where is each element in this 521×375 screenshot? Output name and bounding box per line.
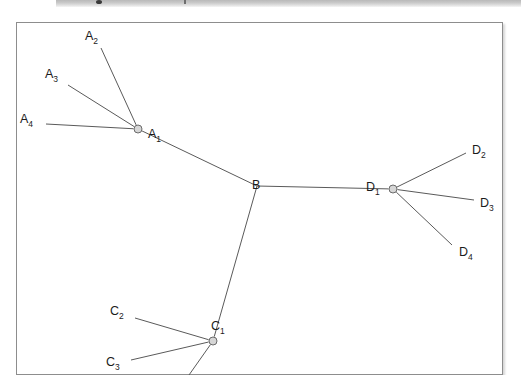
- node-label-base-C1: C: [211, 319, 220, 333]
- graph-edge-B-C1: [214, 186, 257, 337]
- graph-edge-A2-A1: [101, 48, 136, 125]
- node-label-C1: C1: [211, 320, 225, 335]
- node-label-A1: A1: [148, 128, 161, 143]
- node-label-base-D2: D: [472, 143, 481, 157]
- graph-node-D1[interactable]: [389, 185, 397, 193]
- node-label-subscript-D1: 1: [375, 187, 380, 197]
- node-label-A4: A4: [20, 113, 33, 128]
- node-label-B: B: [252, 179, 260, 192]
- node-label-base-C3: C: [106, 355, 115, 369]
- graph-edges-and-nodes: [0, 0, 521, 375]
- figure-canvas: A1A2A3A4BC1C2C3D1D2D3D4: [0, 0, 521, 375]
- node-label-subscript-C1: 1: [220, 326, 225, 336]
- node-label-base-D3: D: [480, 196, 489, 210]
- node-label-subscript-D3: 3: [489, 203, 494, 213]
- node-label-D3: D3: [480, 197, 494, 212]
- graph-node-A1[interactable]: [134, 125, 142, 133]
- graph-edge-C3-C1: [131, 342, 209, 360]
- graph-edge-C2-C1: [135, 318, 209, 340]
- node-label-subscript-D2: 2: [481, 150, 486, 160]
- node-label-D2: D2: [472, 144, 486, 159]
- node-label-A2: A2: [85, 30, 98, 45]
- node-label-C3: C3: [106, 356, 120, 371]
- node-label-base-D1: D: [366, 180, 375, 194]
- node-label-subscript-A1: 1: [156, 134, 161, 144]
- node-label-subscript-A3: 3: [53, 74, 58, 84]
- graph-edge-A4-A1: [46, 124, 134, 129]
- node-label-base-B: B: [252, 178, 260, 192]
- node-label-C2: C2: [110, 305, 124, 320]
- node-layer: [134, 125, 397, 345]
- graph-edge-A3-A1: [68, 85, 134, 127]
- node-label-base-C2: C: [110, 304, 119, 318]
- node-label-A3: A3: [45, 68, 58, 83]
- node-label-subscript-A2: 2: [93, 36, 98, 46]
- node-label-D4: D4: [459, 246, 473, 261]
- graph-edge-D1-D3: [397, 190, 474, 200]
- node-label-subscript-A4: 4: [28, 119, 33, 129]
- node-label-subscript-C2: 2: [119, 311, 124, 321]
- node-label-D1: D1: [366, 181, 380, 196]
- graph-edge-C1-C4: [189, 345, 210, 375]
- node-label-subscript-C3: 3: [115, 362, 120, 372]
- node-label-subscript-D4: 4: [468, 252, 473, 262]
- graph-edge-D1-D2: [397, 153, 466, 187]
- graph-node-C1[interactable]: [209, 337, 217, 345]
- graph-edge-D1-D4: [396, 192, 452, 245]
- edge-layer: [46, 48, 474, 375]
- node-label-base-D4: D: [459, 245, 468, 259]
